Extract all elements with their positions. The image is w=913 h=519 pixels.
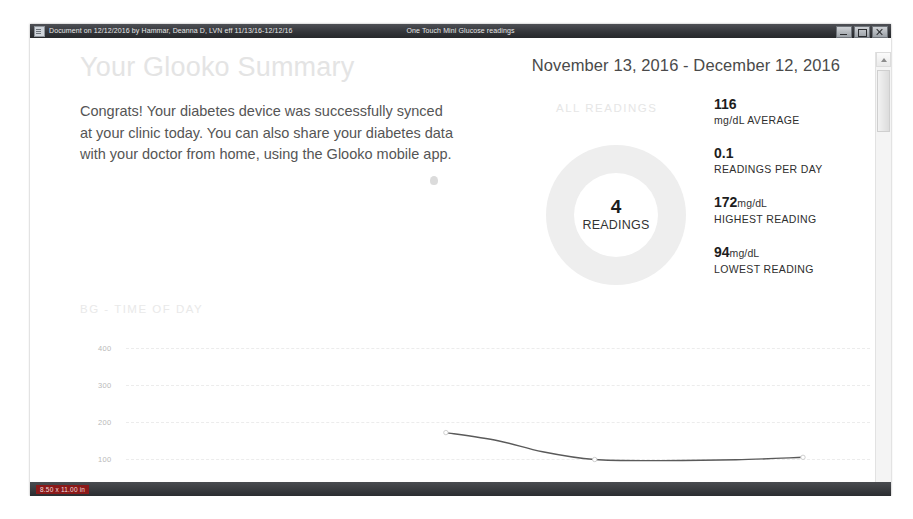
stat-item: 0.1 READINGS PER DAY bbox=[714, 145, 891, 176]
scroll-up-icon bbox=[881, 58, 887, 62]
page-title: Your Glooko Summary bbox=[80, 52, 354, 83]
intro-paragraph: Congrats! Your diabetes device was succe… bbox=[80, 101, 455, 166]
stat-label: READINGS PER DAY bbox=[714, 162, 891, 176]
stat-number: 94 bbox=[714, 244, 730, 260]
stat-value: 0.1 bbox=[714, 145, 891, 162]
donut-center-text: 4 READINGS bbox=[546, 145, 686, 285]
scrollbar-thumb[interactable] bbox=[877, 70, 890, 132]
desktop-background: Document on 12/12/2016 by Hammar, Deanna… bbox=[0, 0, 913, 519]
stat-item: 172mg/dL HIGHEST READING bbox=[714, 194, 891, 226]
bg-data-point bbox=[593, 457, 597, 461]
stat-unit: mg/dL bbox=[737, 197, 767, 209]
bg-data-points bbox=[444, 430, 806, 461]
report-page: Your Glooko Summary November 13, 2016 - … bbox=[38, 38, 876, 496]
document-icon bbox=[34, 26, 45, 37]
readings-donut-chart: 4 READINGS bbox=[546, 145, 686, 285]
stat-number: 172 bbox=[714, 194, 737, 210]
stat-label: mg/dL AVERAGE bbox=[714, 113, 891, 127]
donut-caption: READINGS bbox=[583, 217, 650, 233]
desktop-top-strip bbox=[0, 0, 913, 24]
window-title-bar[interactable]: Document on 12/12/2016 by Hammar, Deanna… bbox=[30, 24, 891, 38]
document-canvas[interactable]: Your Glooko Summary November 13, 2016 - … bbox=[30, 38, 891, 496]
status-bar: 8.50 x 11.00 in bbox=[30, 482, 891, 496]
summary-stats-list: 116 mg/dL AVERAGE 0.1 READINGS PER DAY 1… bbox=[714, 96, 891, 294]
stat-unit: mg/dL bbox=[730, 247, 760, 259]
stat-item: 116 mg/dL AVERAGE bbox=[714, 96, 891, 127]
bg-section-title: BG - TIME OF DAY bbox=[80, 303, 203, 315]
window-controls bbox=[836, 26, 888, 38]
bg-data-point bbox=[444, 430, 448, 434]
stat-value: 172mg/dL bbox=[714, 194, 891, 212]
date-range: November 13, 2016 - December 12, 2016 bbox=[532, 56, 840, 75]
bg-time-of-day-chart: 400 300 200 100 bbox=[80, 330, 870, 496]
minimize-button[interactable] bbox=[836, 26, 852, 38]
window-title-left: Document on 12/12/2016 by Hammar, Deanna… bbox=[49, 24, 293, 38]
bg-data-point bbox=[801, 455, 805, 459]
donut-count: 4 bbox=[611, 197, 622, 217]
maximize-button[interactable] bbox=[854, 26, 870, 38]
bg-line-path bbox=[446, 433, 803, 461]
stat-value: 116 bbox=[714, 96, 891, 113]
stat-item: 94mg/dL LOWEST READING bbox=[714, 244, 891, 276]
page-size-badge: 8.50 x 11.00 in bbox=[36, 485, 89, 494]
desktop-bottom-strip bbox=[0, 496, 913, 519]
close-button[interactable] bbox=[872, 26, 888, 38]
scan-artifact-icon bbox=[430, 176, 438, 185]
bg-line-plot bbox=[80, 330, 870, 496]
stat-label: HIGHEST READING bbox=[714, 212, 891, 226]
stat-label: LOWEST READING bbox=[714, 262, 891, 276]
all-readings-label: ALL READINGS bbox=[556, 102, 657, 114]
scroll-up-button[interactable] bbox=[876, 52, 891, 67]
vertical-scrollbar[interactable] bbox=[875, 52, 891, 496]
application-window: Document on 12/12/2016 by Hammar, Deanna… bbox=[30, 24, 891, 496]
stat-value: 94mg/dL bbox=[714, 244, 891, 262]
